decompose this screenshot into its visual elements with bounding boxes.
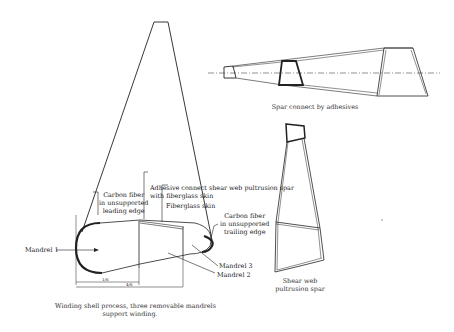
caption-line: support winding. [55,310,205,318]
diagram-canvas: Carbon fiber in unsupported leading edge… [0,0,454,332]
label-carbon-trailing-edge: Carbon fiber in unsupported trailing edg… [220,212,269,236]
label-mandrel-3: Mandrel 3 [219,262,253,270]
label-fiberglass-skin: Fiberglass skin [166,202,215,210]
label-mandrel-1: Mandrel 1 [25,246,59,254]
label-line: Carbon fiber [99,191,148,199]
label-line: in unsupported [99,199,148,207]
label-carbon-leading-edge: Carbon fiber in unsupported leading edge [99,191,148,215]
label-line: with fiberglass skin [150,192,294,200]
label-line: trailing edge [220,228,269,236]
caption-line: Winding shell process, three removable m… [55,302,205,310]
label-line: Carbon fiber [220,212,269,220]
stray-mark [381,219,382,220]
diagram-drawing [0,0,454,332]
caption-spar-connect: Spar connect by adhesives [265,103,365,111]
caption-line: pultrusion spar [270,285,330,293]
caption-winding-shell: Winding shell process, three removable m… [55,302,205,318]
caption-line: Shear web [270,277,330,285]
label-line: Adhesive connect shear web pultrusion sp… [150,184,294,192]
label-line: leading edge [99,207,148,215]
label-dim-short: 1/6 [102,276,108,284]
label-adhesive-connect: Adhesive connect shear web pultrusion sp… [150,184,294,200]
label-line: in unsupported [220,220,269,228]
caption-shear-web: Shear web pultrusion spar [270,277,330,293]
spar-assembly [208,48,440,96]
label-mandrel-2: Mandrel 2 [217,271,251,279]
label-dim-long: 4/6 [126,281,132,289]
